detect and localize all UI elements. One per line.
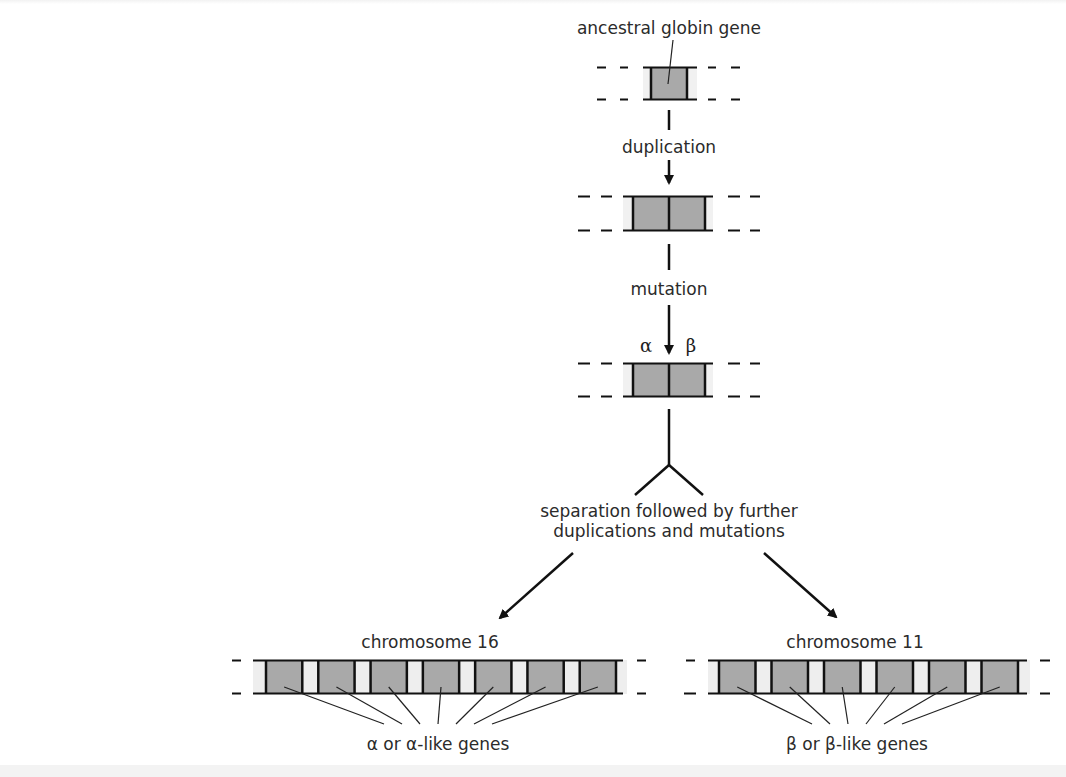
separation-label-line-2: duplications and mutations (553, 521, 785, 541)
chromosome-11-label: chromosome 11 (786, 632, 923, 652)
chromosome-16-segment (232, 660, 646, 724)
globin-evolution-diagram (0, 0, 1066, 777)
chromosome-11-segment (684, 660, 1050, 724)
gene-box (527, 661, 563, 693)
arrow-to-chromosome-11 (764, 553, 836, 617)
mutation-label: mutation (631, 279, 708, 299)
gene-box (580, 661, 616, 693)
gene-box (371, 661, 407, 693)
ancestral-gene-label: ancestral globin gene (577, 18, 761, 38)
gene-box (475, 661, 511, 693)
gene-box (266, 661, 302, 693)
beta-symbol: β (686, 335, 696, 356)
beta-genes-label: β or β-like genes (786, 734, 928, 754)
duplicated-gene-segment (578, 196, 760, 231)
gene-box (318, 661, 354, 693)
gene-box (982, 661, 1019, 693)
alpha-symbol: α (640, 335, 652, 356)
gene-box (772, 661, 809, 693)
mutated-gene-segment (578, 363, 760, 397)
separation-fork (635, 409, 703, 495)
ancestral-gene-segment (597, 40, 740, 100)
separation-label-line-1: separation followed by further (540, 501, 798, 521)
gene-box (929, 661, 966, 693)
chromosome-16-label: chromosome 16 (361, 632, 498, 652)
gene-box (719, 661, 756, 693)
alpha-genes-label: α or α-like genes (367, 734, 510, 754)
arrow-to-chromosome-16 (500, 553, 573, 618)
gene-box (877, 661, 914, 693)
duplication-label: duplication (622, 137, 716, 157)
